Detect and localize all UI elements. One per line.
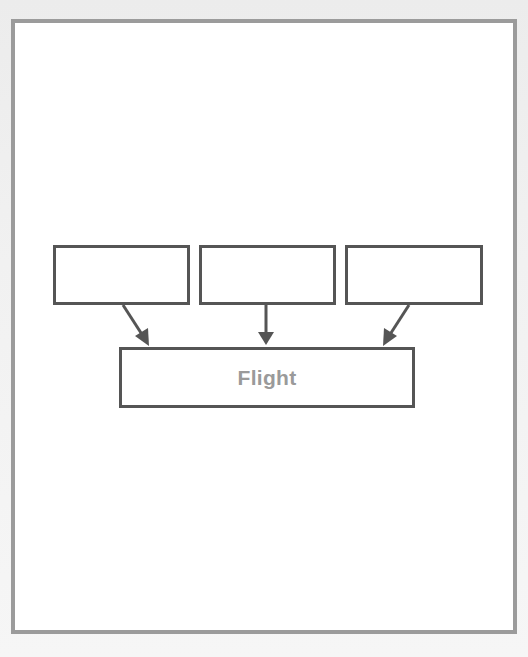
flight-box: Flight bbox=[119, 347, 415, 408]
diagram-frame bbox=[11, 19, 517, 634]
flight-box-label: Flight bbox=[238, 366, 297, 390]
source-box-3 bbox=[345, 245, 483, 305]
source-box-1 bbox=[53, 245, 190, 305]
source-box-2 bbox=[199, 245, 336, 305]
